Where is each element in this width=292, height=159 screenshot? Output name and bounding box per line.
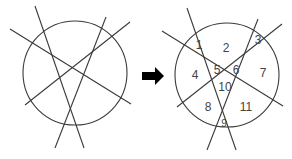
region-label: 10 [218, 80, 232, 94]
diagram-canvas: 1 2 3 4 5 6 7 8 9 10 11 [0, 0, 292, 159]
region-label: 2 [223, 41, 230, 55]
region-labels: 1 2 3 4 5 6 7 8 9 10 11 [192, 33, 267, 129]
region-label: 6 [233, 63, 240, 77]
cut-line-2 [10, 29, 131, 104]
region-label: 8 [205, 100, 212, 114]
region-label: 9 [221, 118, 227, 129]
region-label: 1 [196, 38, 203, 52]
region-label: 4 [192, 68, 199, 82]
arrow-right-icon [142, 67, 164, 85]
region-label: 3 [255, 33, 262, 47]
cut-line-3 [207, 19, 258, 150]
region-label: 5 [214, 63, 221, 77]
region-label: 7 [260, 66, 267, 80]
cut-line-1 [35, 6, 84, 148]
before-figure [10, 6, 131, 148]
region-label: 11 [240, 100, 253, 114]
cut-line-3 [55, 17, 106, 148]
